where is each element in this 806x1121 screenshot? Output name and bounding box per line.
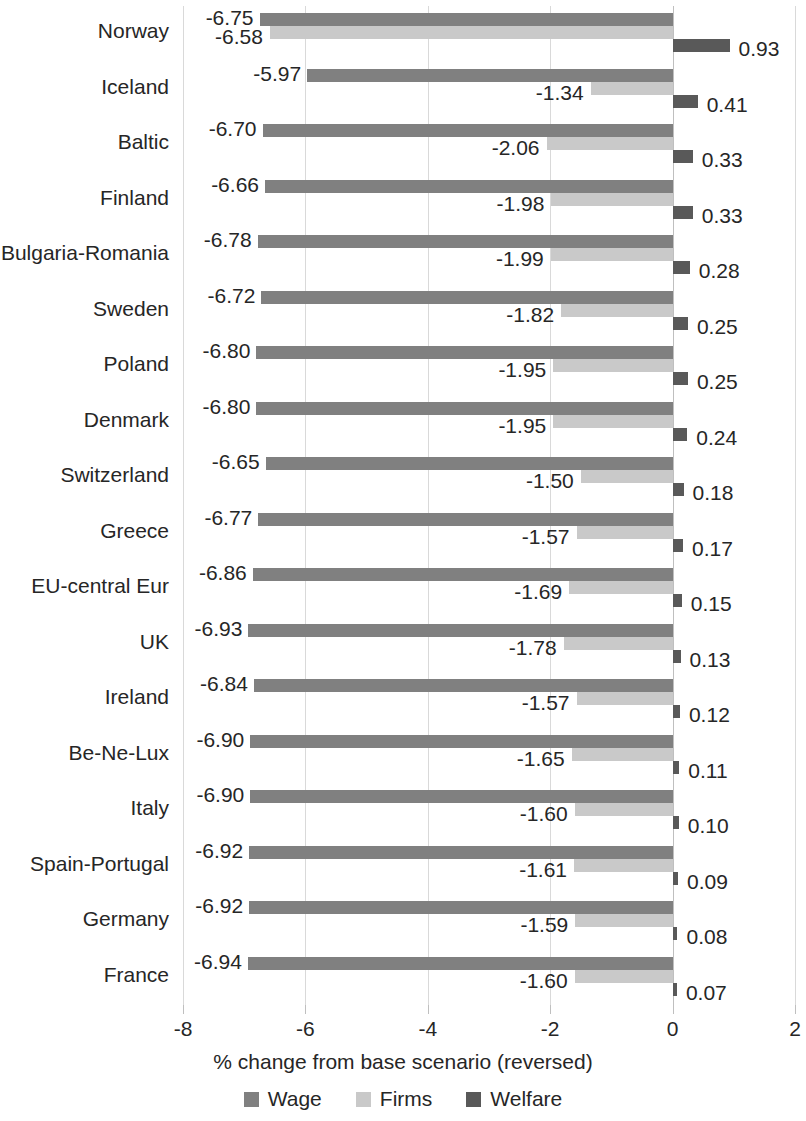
bar-firms[interactable] bbox=[581, 470, 673, 483]
bar-wage[interactable] bbox=[266, 457, 673, 470]
bar-wage[interactable] bbox=[248, 624, 672, 637]
x-tick--6 bbox=[305, 1005, 306, 1014]
bar-row: -6.72-1.820.25 bbox=[183, 284, 795, 340]
bar-welfare[interactable] bbox=[673, 594, 682, 607]
bar-wage[interactable] bbox=[260, 13, 673, 26]
bar-row: -6.93-1.780.13 bbox=[183, 617, 795, 673]
category-label: Spain-Portugal bbox=[0, 852, 169, 876]
bar-welfare[interactable] bbox=[673, 39, 730, 52]
bar-firms[interactable] bbox=[553, 359, 672, 372]
value-label-welfare: 0.15 bbox=[682, 593, 732, 614]
bar-row: -6.90-1.600.10 bbox=[183, 783, 795, 839]
bar-firms[interactable] bbox=[577, 692, 673, 705]
bar-wage[interactable] bbox=[258, 235, 673, 248]
bar-firms[interactable] bbox=[551, 248, 673, 261]
bar-wage[interactable] bbox=[254, 679, 673, 692]
bar-firms[interactable] bbox=[551, 193, 672, 206]
bar-firms[interactable] bbox=[561, 304, 672, 317]
x-tick-label: -2 bbox=[541, 1017, 560, 1041]
legend-swatch-icon bbox=[244, 1092, 259, 1107]
bar-row: -6.92-1.610.09 bbox=[183, 839, 795, 895]
bar-welfare[interactable] bbox=[673, 539, 683, 552]
category-label: Germany bbox=[0, 907, 169, 931]
value-label-firms: -1.95 bbox=[498, 415, 553, 436]
x-tick-0 bbox=[673, 1005, 674, 1014]
category-label: UK bbox=[0, 630, 169, 654]
bar-row: -6.84-1.570.12 bbox=[183, 672, 795, 728]
legend-label: Wage bbox=[268, 1088, 322, 1110]
bar-firms[interactable] bbox=[591, 82, 673, 95]
bar-firms[interactable] bbox=[575, 803, 673, 816]
bar-welfare[interactable] bbox=[673, 317, 688, 330]
bar-welfare[interactable] bbox=[673, 483, 684, 496]
category-label: Denmark bbox=[0, 408, 169, 432]
bar-firms[interactable] bbox=[270, 26, 673, 39]
bar-wage[interactable] bbox=[256, 346, 672, 359]
bar-wage[interactable] bbox=[261, 291, 672, 304]
bar-wage[interactable] bbox=[307, 69, 672, 82]
bar-firms[interactable] bbox=[569, 581, 672, 594]
value-label-welfare: 0.18 bbox=[684, 482, 734, 503]
bar-firms[interactable] bbox=[577, 526, 673, 539]
legend-swatch-icon bbox=[356, 1092, 371, 1107]
bar-welfare[interactable] bbox=[673, 428, 688, 441]
value-label-welfare: 0.24 bbox=[687, 427, 737, 448]
bar-wage[interactable] bbox=[248, 957, 673, 970]
x-tick--8 bbox=[183, 1005, 184, 1014]
bar-row: -6.70-2.060.33 bbox=[183, 117, 795, 173]
category-label: Finland bbox=[0, 186, 169, 210]
bar-wage[interactable] bbox=[265, 180, 673, 193]
bar-wage[interactable] bbox=[249, 901, 673, 914]
category-label: EU-central Eur bbox=[0, 574, 169, 598]
category-label: France bbox=[0, 963, 169, 987]
bar-firms[interactable] bbox=[564, 637, 673, 650]
bar-firms[interactable] bbox=[575, 914, 672, 927]
bar-wage[interactable] bbox=[256, 402, 672, 415]
value-label-wage: -6.90 bbox=[196, 784, 250, 805]
category-label: Greece bbox=[0, 519, 169, 543]
value-label-wage: -6.92 bbox=[195, 895, 249, 916]
bar-welfare[interactable] bbox=[673, 761, 680, 774]
legend-item[interactable]: Firms bbox=[356, 1088, 432, 1110]
bar-row: -6.78-1.990.28 bbox=[183, 228, 795, 284]
bar-welfare[interactable] bbox=[673, 650, 681, 663]
bar-welfare[interactable] bbox=[673, 150, 693, 163]
bar-wage[interactable] bbox=[249, 846, 673, 859]
value-label-firms: -1.60 bbox=[520, 970, 575, 991]
value-label-wage: -6.66 bbox=[211, 174, 265, 195]
value-label-welfare: 0.11 bbox=[679, 760, 727, 781]
legend-item[interactable]: Wage bbox=[244, 1088, 322, 1110]
value-label-firms: -1.57 bbox=[522, 526, 577, 547]
bar-firms[interactable] bbox=[553, 415, 672, 428]
bar-welfare[interactable] bbox=[673, 95, 698, 108]
value-label-wage: -6.93 bbox=[195, 618, 249, 639]
x-tick--4 bbox=[428, 1005, 429, 1014]
gridline-2 bbox=[795, 6, 796, 1005]
bar-wage[interactable] bbox=[258, 513, 672, 526]
bar-welfare[interactable] bbox=[673, 705, 680, 718]
category-label: Poland bbox=[0, 352, 169, 376]
value-label-welfare: 0.28 bbox=[690, 260, 740, 281]
value-label-welfare: 0.09 bbox=[678, 871, 728, 892]
bar-row: -6.66-1.980.33 bbox=[183, 173, 795, 229]
bar-welfare[interactable] bbox=[673, 261, 690, 274]
bar-wage[interactable] bbox=[263, 124, 673, 137]
bar-firms[interactable] bbox=[547, 137, 673, 150]
legend-swatch-icon bbox=[466, 1092, 481, 1107]
bar-wage[interactable] bbox=[250, 790, 672, 803]
value-label-welfare: 0.17 bbox=[683, 538, 733, 559]
bar-wage[interactable] bbox=[253, 568, 673, 581]
x-axis-title: % change from base scenario (reversed) bbox=[0, 1050, 806, 1074]
bar-firms[interactable] bbox=[572, 748, 673, 761]
bar-row: -5.97-1.340.41 bbox=[183, 62, 795, 118]
legend-item[interactable]: Welfare bbox=[466, 1088, 562, 1110]
value-label-welfare: 0.41 bbox=[698, 94, 748, 115]
value-label-firms: -2.06 bbox=[492, 137, 547, 158]
bar-welfare[interactable] bbox=[673, 206, 693, 219]
bar-firms[interactable] bbox=[574, 859, 673, 872]
value-label-wage: -5.97 bbox=[253, 63, 307, 84]
bar-firms[interactable] bbox=[575, 970, 673, 983]
bar-wage[interactable] bbox=[250, 735, 672, 748]
bar-row: -6.80-1.950.25 bbox=[183, 339, 795, 395]
bar-welfare[interactable] bbox=[673, 372, 688, 385]
